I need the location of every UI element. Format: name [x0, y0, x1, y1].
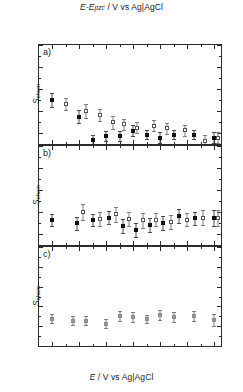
y-tick-minor: [39, 297, 41, 298]
error-bar-cap: [183, 136, 187, 137]
data-point: [177, 214, 181, 218]
y-tick-minor-right: [219, 157, 221, 158]
error-bar-cap: [216, 132, 220, 133]
error-bar-cap: [169, 229, 173, 230]
x-tick-top: [133, 247, 134, 251]
x-tick-top: [160, 146, 161, 150]
y-tick-mark-right: [217, 45, 221, 46]
error-bar-cap: [141, 213, 145, 214]
y-tick-mark-right: [217, 287, 221, 288]
x-tick-bottom: [106, 241, 107, 245]
x-tick-top: [52, 247, 53, 251]
y-tick-mark: [39, 326, 43, 327]
x-tick-top: [214, 146, 215, 150]
error-bar-cap: [212, 314, 216, 315]
data-point: [145, 317, 149, 321]
top-axis-units: / V vs Ag|AgCl: [107, 2, 163, 12]
data-point: [77, 115, 81, 119]
x-tick-top-minor: [120, 146, 121, 148]
bottom-axis-label: E / V vs Ag|AgCl: [0, 372, 243, 382]
error-bar-cap: [64, 110, 68, 111]
x-tick-top: [106, 146, 107, 150]
data-point: [192, 133, 196, 137]
error-bar-cap: [81, 220, 85, 221]
error-bar-cap: [77, 123, 81, 124]
x-tick-bottom-minor: [147, 243, 148, 245]
error-bar-cap: [177, 209, 181, 210]
x-tick-top-minor: [120, 247, 121, 249]
y-tick-minor-right: [219, 122, 221, 123]
data-point: [203, 139, 207, 143]
error-bar-cap: [50, 214, 54, 215]
figure-root: E-Epzc / V vs Ag|AgCl a) Schain 0.60.70.…: [0, 0, 243, 392]
y-tick-minor-right: [219, 297, 221, 298]
top-axis-label: E-Epzc / V vs Ag|AgCl: [0, 2, 243, 12]
error-bar-cap: [172, 322, 176, 323]
data-point: [158, 313, 162, 317]
data-point: [193, 216, 197, 220]
error-bar-cap: [111, 129, 115, 130]
error-bar-cap: [154, 213, 158, 214]
x-tick-top: [133, 146, 134, 150]
x-tick-bottom: [133, 342, 134, 346]
error-bar-cap: [77, 110, 81, 111]
error-bar-cap: [148, 232, 152, 233]
error-bar-cap: [158, 132, 162, 133]
error-bar-cap: [98, 226, 102, 227]
x-tick-top: [187, 45, 188, 49]
error-bar-cap: [131, 312, 135, 313]
x-tick-bottom-minor: [66, 243, 67, 245]
x-tick-bottom-minor: [147, 344, 148, 346]
error-bar-cap: [158, 320, 162, 321]
data-point: [81, 210, 85, 214]
data-point: [161, 221, 165, 225]
error-bar-cap: [135, 122, 139, 123]
x-tick-top-minor: [66, 146, 67, 148]
data-point: [118, 134, 122, 138]
x-tick-top-minor: [66, 247, 67, 249]
y-tick-mark: [39, 89, 43, 90]
error-bar-cap: [91, 214, 95, 215]
error-bar-cap: [183, 125, 187, 126]
data-point: [216, 216, 220, 220]
x-tick-top: [79, 247, 80, 251]
error-bar-cap: [107, 211, 111, 212]
data-point: [75, 221, 79, 225]
data-point: [107, 216, 111, 220]
data-point: [169, 220, 173, 224]
y-tick-minor: [39, 336, 41, 337]
error-bar-cap: [84, 104, 88, 105]
error-bar-cap: [192, 321, 196, 322]
data-point: [135, 126, 139, 130]
x-tick-top: [214, 247, 215, 251]
error-bar-cap: [84, 325, 88, 326]
error-bar-cap: [127, 212, 131, 213]
error-bar-cap: [185, 213, 189, 214]
error-bar-cap: [172, 130, 176, 131]
error-bar-cap: [127, 226, 131, 227]
y-tick-mark: [39, 247, 43, 248]
error-bar-cap: [84, 118, 88, 119]
y-tick-mark-right: [217, 326, 221, 327]
data-point: [141, 218, 145, 222]
y-tick-mark: [39, 212, 43, 213]
data-point: [98, 113, 102, 117]
error-bar-cap: [64, 98, 68, 99]
error-bar-cap: [177, 223, 181, 224]
y-tick-mark: [39, 168, 43, 169]
x-tick-top-minor: [174, 146, 175, 148]
error-bar-cap: [122, 119, 126, 120]
y-tick-mark: [39, 306, 43, 307]
y-tick-mark: [39, 45, 43, 46]
data-point: [122, 122, 126, 126]
error-bar-cap: [135, 133, 139, 134]
error-bar-cap: [104, 328, 108, 329]
x-tick-bottom: [187, 241, 188, 245]
y-tick-minor-right: [219, 257, 221, 258]
data-point: [127, 217, 131, 221]
panel-a: a) Schain 0.60.70.80.91.0-0.8-0.6-0.4-0.…: [38, 44, 222, 145]
x-tick-top: [214, 45, 215, 49]
y-tick-minor-right: [219, 201, 221, 202]
data-point: [84, 319, 88, 323]
y-tick-mark-right: [217, 111, 221, 112]
